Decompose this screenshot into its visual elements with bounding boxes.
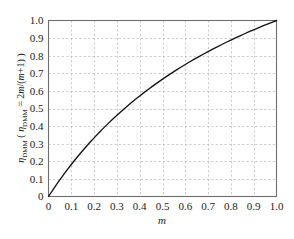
y-tick-label: 0.6	[30, 85, 44, 97]
plot-frame	[49, 21, 277, 197]
y-tick-label: 0.8	[30, 50, 44, 62]
y-tick-label: 0.2	[30, 155, 44, 167]
y-tick-label: 0.5	[30, 102, 44, 114]
y-tick-label: 0	[38, 190, 44, 202]
y-tick-label: 0.7	[30, 67, 44, 79]
y-tick-label: 0.4	[30, 120, 44, 132]
y-title-m-2: m	[15, 73, 26, 80]
x-tick-label: 0.5	[156, 200, 170, 212]
y-tick-label: 1.0	[30, 14, 44, 26]
x-tick-label: 0.8	[224, 200, 238, 212]
x-tick-label: 0	[46, 200, 52, 212]
x-tick-label: 0.3	[110, 200, 124, 212]
grid-lines	[49, 21, 277, 197]
x-tick-label: 0.9	[247, 200, 261, 212]
y-title-sub-1: DMM	[21, 139, 29, 157]
x-axis-title: m	[158, 214, 166, 226]
chart-svg: 00.10.20.30.40.50.60.70.80.91.0 00.10.20…	[0, 0, 294, 239]
svg-text:ηDMM ( ηDMM = 2m/(m+1) ): ηDMM ( ηDMM = 2m/(m+1) )	[15, 53, 29, 162]
y-tick-label: 0.3	[30, 138, 44, 150]
y-tick-label: 0.9	[30, 32, 44, 44]
y-title-equals: = 2	[15, 94, 26, 110]
x-tick-label: 0.4	[133, 200, 147, 212]
y-title-open-paren: (	[15, 132, 27, 140]
y-title-sub-2: DMM	[21, 109, 29, 127]
y-title-m-1: m	[15, 86, 26, 93]
x-tick-label: 0.6	[178, 200, 192, 212]
x-axis-tick-labels: 00.10.20.30.40.50.60.70.80.91.0	[46, 200, 284, 212]
x-tick-label: 0.2	[87, 200, 101, 212]
y-axis-tick-labels: 00.10.20.30.40.50.60.70.80.91.0	[30, 14, 44, 202]
x-tick-label: 1.0	[270, 200, 284, 212]
data-curve-eta-dmm	[49, 21, 277, 197]
x-tick-label: 0.7	[201, 200, 215, 212]
y-tick-label: 0.1	[30, 173, 44, 185]
y-title-tail: +1) )	[15, 53, 27, 73]
chart-figure: 00.10.20.30.40.50.60.70.80.91.0 00.10.20…	[0, 0, 294, 239]
y-axis-title: ηDMM ( ηDMM = 2m/(m+1) )	[15, 53, 29, 162]
x-tick-label: 0.1	[64, 200, 78, 212]
